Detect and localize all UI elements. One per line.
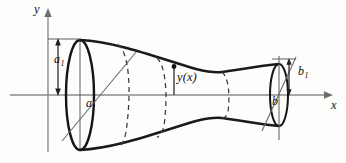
ordinate-group	[172, 64, 177, 95]
cross-section-ellipse-1	[118, 45, 129, 148]
cross-section-ellipse-2	[157, 58, 166, 138]
curve-point-marker	[172, 64, 177, 69]
a1-label: a1	[54, 53, 64, 65]
b1-subscript: 1	[304, 71, 308, 80]
cross-section-group	[118, 45, 229, 148]
y-axis-label: y	[34, 3, 40, 16]
a1-subscript: 1	[60, 59, 64, 68]
lower-profile-curve	[80, 118, 279, 150]
a-label: a	[86, 97, 92, 109]
y-of-x-label: y(x)	[177, 71, 197, 84]
left-rim-chord-line	[62, 51, 137, 141]
figure-canvas	[0, 0, 346, 163]
right-rim-group	[262, 56, 296, 140]
b-label: b	[272, 95, 278, 107]
y-axis-arrowhead	[44, 8, 51, 17]
x-axis-label: x	[331, 99, 337, 112]
b1-label: b1	[298, 65, 308, 77]
upper-profile-curve	[80, 40, 279, 72]
solid-of-revolution-figure: y x a1 a y(x) b1 b	[0, 0, 346, 163]
